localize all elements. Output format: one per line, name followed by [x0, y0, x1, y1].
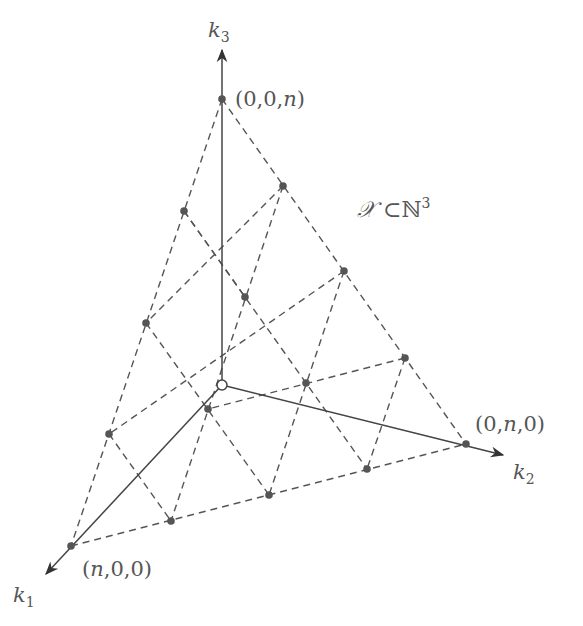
lattice-point — [142, 319, 150, 327]
lattice-point — [340, 267, 348, 275]
lattice-point — [105, 430, 113, 438]
lattice-point — [241, 293, 249, 301]
vertex-label-0-0-n: (0,0,n) — [235, 89, 305, 110]
axis-label-k3: k3 — [208, 20, 230, 44]
lattice-point — [401, 354, 409, 362]
vertex-label-n-0-0: (n,0,0) — [82, 559, 152, 580]
lattice-point — [167, 517, 175, 525]
dashed-edge — [109, 434, 171, 521]
lattice-point — [363, 465, 371, 473]
dashed-edge — [184, 211, 367, 469]
lattice-point — [67, 542, 75, 550]
dashed-edge — [367, 358, 405, 469]
dashed-edge — [109, 271, 344, 434]
origin-point — [217, 380, 227, 390]
lattice-point — [265, 491, 273, 499]
axis-label-k2: k2 — [513, 462, 535, 486]
dashed-edge — [171, 186, 283, 521]
lattice-point — [218, 95, 226, 103]
lattice-point — [462, 440, 470, 448]
lattice-point — [279, 182, 287, 190]
lattice-points — [67, 95, 470, 550]
coordinate-axes — [46, 50, 503, 574]
lattice-point — [180, 207, 188, 215]
lattice-point — [204, 405, 212, 413]
simplex-dashed-edges — [71, 99, 466, 546]
vertex-label-0-n-0: (0,n,0) — [475, 414, 545, 435]
axis-k2 — [222, 385, 503, 455]
axis-label-k1: k1 — [13, 585, 35, 609]
lattice-point — [302, 379, 310, 387]
set-label: 𝒳 ⊂ℕ3 — [357, 196, 430, 221]
dashed-edge — [146, 186, 283, 323]
